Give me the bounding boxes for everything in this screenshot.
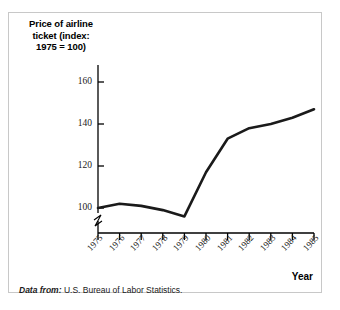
y-tick-label-160: 160 — [66, 76, 92, 86]
source-note-lead: Data from: — [19, 285, 62, 295]
y-tick-label-140: 140 — [66, 118, 92, 128]
y-tick-label-120: 120 — [66, 160, 92, 170]
line-chart-svg — [9, 13, 323, 294]
x-axis-title: Year — [292, 271, 313, 282]
source-note: Data from: U.S. Bureau of Labor Statisti… — [19, 285, 182, 295]
data-series-line — [98, 109, 314, 216]
y-tick-label-100: 100 — [66, 202, 92, 212]
plot-area: 160 140 120 100 1975 1976 1977 1978 1979… — [9, 13, 323, 294]
y-axis-break-symbol — [94, 215, 102, 226]
source-note-text: U.S. Bureau of Labor Statistics. — [64, 285, 183, 295]
figure-panel: Price of airline ticket (index: 1975 = 1… — [8, 12, 322, 293]
